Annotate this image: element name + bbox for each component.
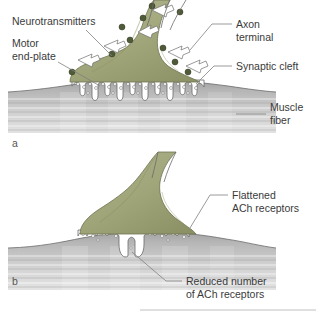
panel-letter-a: a — [12, 137, 18, 149]
label-muscle-fiber-line1: Muscle — [270, 101, 303, 113]
label-axon-terminal-line2: terminal — [236, 31, 273, 43]
label-axon-terminal-line1: Axon — [236, 18, 260, 30]
label-motor-end-plate-line1: Motor — [12, 37, 39, 49]
axon-terminal-shape-b — [80, 152, 196, 234]
label-synaptic-cleft: Synaptic cleft — [236, 60, 299, 72]
neuromuscular-junction-figure: Neurotransmitters Motor end-plate Axon t… — [0, 0, 322, 316]
label-flattened-line2: ACh receptors — [232, 202, 299, 214]
axon-terminal-b — [80, 152, 196, 234]
label-motor-end-plate-line2: end-plate — [12, 50, 56, 62]
leader-axon-terminal — [190, 24, 232, 50]
label-reduced-line2: of ACh receptors — [186, 288, 264, 300]
label-reduced-line1: Reduced number — [186, 275, 267, 287]
label-neurotransmitters: Neurotransmitters — [12, 15, 95, 27]
leader-flattened-receptors — [190, 195, 228, 228]
axon-terminal-a — [69, 0, 208, 82]
panel-letter-b: b — [12, 275, 18, 287]
leader-neurotransmitters — [86, 30, 112, 56]
panel-a: Neurotransmitters Motor end-plate Axon t… — [8, 0, 303, 149]
panel-b: Flattened ACh receptors Reduced number o… — [8, 152, 299, 300]
label-flattened-line1: Flattened — [232, 189, 276, 201]
label-muscle-fiber-line2: fiber — [270, 114, 291, 126]
